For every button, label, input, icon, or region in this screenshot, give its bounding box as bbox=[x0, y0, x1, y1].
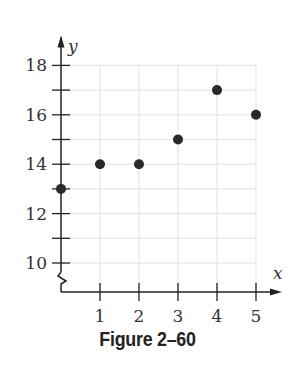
x-axis-arrow-icon bbox=[270, 289, 282, 296]
axis-ticks bbox=[52, 65, 256, 301]
x-tick-label: 5 bbox=[251, 306, 262, 326]
data-point bbox=[134, 159, 144, 169]
y-tick-label: 18 bbox=[25, 55, 47, 75]
axis-break-icon bbox=[58, 272, 66, 292]
axes bbox=[58, 35, 283, 295]
data-point bbox=[173, 135, 183, 145]
y-axis-label: y bbox=[67, 36, 78, 56]
y-axis-arrow-icon bbox=[58, 35, 65, 47]
x-tick-label: 2 bbox=[134, 306, 145, 326]
y-tick-label: 12 bbox=[25, 204, 47, 224]
figure-caption: Figure 2–60 bbox=[22, 327, 273, 351]
data-point bbox=[56, 184, 66, 194]
x-axis-label: x bbox=[273, 263, 283, 283]
data-point bbox=[212, 85, 222, 95]
y-tick-label: 16 bbox=[25, 105, 47, 125]
scatter-chart: 101214161812345 y x bbox=[0, 0, 295, 365]
y-tick-label: 14 bbox=[25, 154, 47, 174]
x-tick-label: 4 bbox=[212, 306, 223, 326]
y-tick-label: 10 bbox=[25, 253, 47, 273]
data-point bbox=[251, 110, 261, 120]
x-tick-label: 1 bbox=[95, 306, 106, 326]
data-point bbox=[95, 159, 105, 169]
grid-lines bbox=[61, 65, 256, 292]
x-tick-label: 3 bbox=[173, 306, 184, 326]
